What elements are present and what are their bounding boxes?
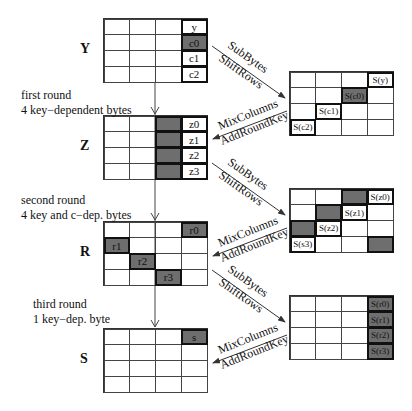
state-byte-cell: S(s3)	[290, 236, 317, 253]
state-byte-cell: S(c1)	[315, 103, 342, 120]
state-byte-cell: r2	[129, 253, 156, 270]
state-byte-cell: S(c2)	[290, 119, 317, 136]
state-byte-cell: S(y)	[367, 72, 394, 89]
state-byte-cell: r0	[181, 222, 208, 239]
state-byte-cell: z3	[181, 163, 208, 180]
state-byte-cell: s	[181, 329, 208, 346]
state-byte-cell: y	[181, 19, 208, 36]
state-byte-cell: S(r3)	[367, 343, 394, 360]
state-byte-cell: z2	[181, 147, 208, 164]
state-byte-cell	[290, 220, 317, 237]
state-byte-cell	[155, 147, 182, 164]
state-byte-cell: S(z0)	[367, 189, 394, 206]
state-byte-cell	[315, 204, 342, 221]
state-byte-cell	[155, 116, 182, 133]
state-byte-cell: S(r0)	[367, 296, 394, 313]
state-byte-cell: c2	[181, 66, 208, 83]
state-byte-cell: S(z2)	[315, 220, 342, 237]
state-byte-cell: z1	[181, 131, 208, 148]
state-byte-cell: z0	[181, 116, 208, 133]
state-byte-cell	[155, 131, 182, 148]
state-byte-cell: S(z1)	[341, 204, 368, 221]
state-byte-cell: S(c0)	[341, 87, 368, 104]
state-byte-cell	[367, 236, 394, 253]
state-byte-cell: c0	[181, 34, 208, 51]
state-byte-cell: r1	[104, 237, 131, 254]
state-byte-cell: S(r2)	[367, 327, 394, 344]
state-byte-cell: S(r1)	[367, 311, 394, 328]
state-byte-cell	[341, 189, 368, 206]
state-byte-cell	[155, 163, 182, 180]
state-byte-cell: r3	[155, 269, 182, 286]
state-byte-cell: c1	[181, 50, 208, 67]
